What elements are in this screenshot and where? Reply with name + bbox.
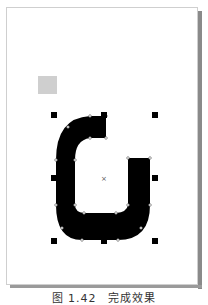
selection-handle-top-center[interactable] [101, 112, 107, 118]
selection-handle-middle-right[interactable] [152, 175, 158, 181]
selection-handle-top-right[interactable] [152, 112, 158, 118]
selection-handle-middle-left[interactable] [51, 175, 57, 181]
selection-handle-bottom-center[interactable] [101, 238, 107, 244]
selection-handle-bottom-right[interactable] [152, 238, 158, 244]
selection-handle-top-left[interactable] [51, 112, 57, 118]
figure-caption: 图 1.42 完成效果 [0, 289, 208, 305]
center-marker-icon[interactable]: × [101, 176, 107, 183]
selection-handle-bottom-left[interactable] [51, 238, 57, 244]
